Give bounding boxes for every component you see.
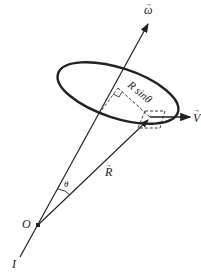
circular-orbit bbox=[50, 50, 185, 136]
radius-arrow-accent: → bbox=[105, 161, 112, 169]
omega-arrow-accent: → bbox=[145, 0, 152, 8]
origin-label: O bbox=[22, 217, 31, 231]
axis-label: I bbox=[11, 257, 17, 271]
origin-point bbox=[36, 223, 40, 227]
rotation-axis bbox=[20, 24, 148, 257]
velocity-arrow-accent: → bbox=[193, 106, 200, 114]
angle-arc bbox=[58, 189, 70, 195]
axis-dashed-segment bbox=[99, 88, 118, 114]
angle-label: θ bbox=[64, 179, 69, 189]
perpendicular-distance-label: R sinθ bbox=[125, 78, 155, 106]
radius-vector bbox=[38, 120, 148, 225]
rotation-diagram: ω → V → R → θ O I R sinθ bbox=[0, 0, 201, 274]
